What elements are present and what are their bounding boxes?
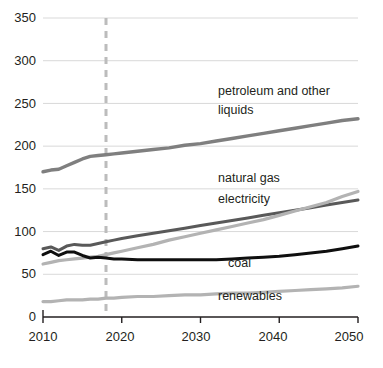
x-axis-tick-label: 2020 bbox=[96, 330, 144, 343]
y-axis-tick-label: 0 bbox=[0, 310, 36, 323]
series-line-renewables bbox=[43, 286, 358, 301]
label-electricity: electricity bbox=[218, 192, 270, 207]
y-axis-tick-label: 250 bbox=[0, 97, 36, 110]
y-axis-tick-label: 100 bbox=[0, 225, 36, 238]
energy-consumption-line-chart bbox=[0, 0, 383, 368]
label-petroleum-line1: petroleum and other bbox=[218, 84, 330, 99]
x-axis-tick-label: 2030 bbox=[172, 330, 220, 343]
y-axis-tick-label: 150 bbox=[0, 182, 36, 195]
y-axis-tick-label: 200 bbox=[0, 139, 36, 152]
chart-container: 350300250200150100500 201020202030204020… bbox=[0, 0, 383, 368]
y-axis-tick-label: 350 bbox=[0, 11, 36, 24]
label-renewables: renewables bbox=[218, 289, 282, 304]
x-axis-tick-label: 2010 bbox=[19, 330, 67, 343]
label-coal: coal bbox=[228, 256, 251, 271]
label-petroleum-line2: liquids bbox=[218, 103, 253, 118]
y-axis-tick-label: 50 bbox=[0, 267, 36, 280]
series-line-coal bbox=[43, 246, 358, 260]
x-axis-tick-label: 2040 bbox=[249, 330, 297, 343]
x-axis-tick-label: 2050 bbox=[325, 330, 373, 343]
y-axis-tick-label: 300 bbox=[0, 54, 36, 67]
series-line-petroleum-and-other-liquids bbox=[43, 119, 358, 172]
label-natural-gas: natural gas bbox=[218, 171, 280, 186]
